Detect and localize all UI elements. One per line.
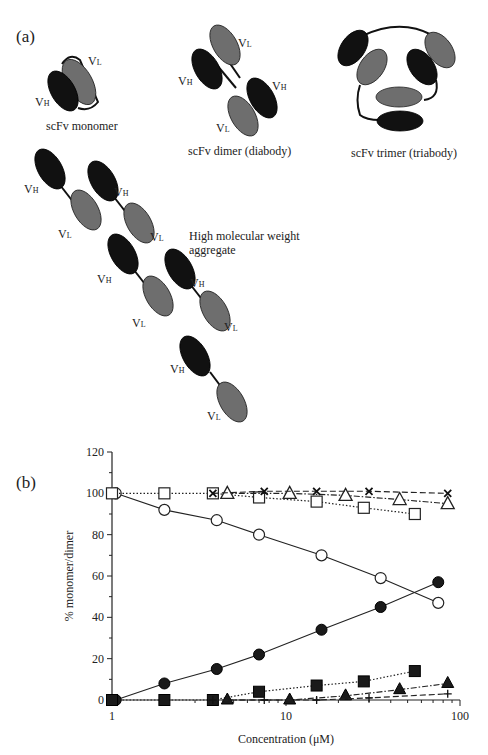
series-line xyxy=(213,694,448,700)
triabody-diagram: scFv trimer (triabody) xyxy=(332,25,462,160)
data-point xyxy=(365,694,373,702)
data-point xyxy=(375,573,386,584)
series-plus xyxy=(209,690,452,704)
aggregate-diagram: VH VH VL VL VH VH VL VL VH VL High molec… xyxy=(24,144,300,427)
y-tick-label: 0 xyxy=(98,693,104,707)
panel-b-label: (b) xyxy=(16,473,36,492)
data-point xyxy=(159,504,170,515)
data-point xyxy=(409,666,420,677)
panel-a-label: (a) xyxy=(16,27,35,46)
triabody-caption: scFv trimer (triabody) xyxy=(351,146,457,160)
panel-a: (a) VL VH scFv monomer VL VH VH VL scFv … xyxy=(16,20,461,427)
y-tick-label: 40 xyxy=(92,610,104,624)
vl-label: VL xyxy=(58,227,72,241)
vh-label: VH xyxy=(114,185,129,199)
vl-label: VL xyxy=(224,320,238,334)
chart-axes: 020406080100120110100 xyxy=(86,445,469,723)
vl-domain xyxy=(376,87,422,107)
aggregate-caption-line1: High molecular weight xyxy=(189,229,300,243)
vl-label: VL xyxy=(132,316,146,330)
data-point xyxy=(311,496,322,507)
diabody-caption: scFv dimer (diabody) xyxy=(188,144,291,158)
vl-label: VL xyxy=(238,36,252,50)
chart-series xyxy=(107,486,455,705)
vl-label: VL xyxy=(207,409,221,423)
data-point xyxy=(393,493,406,505)
y-tick-label: 120 xyxy=(86,445,104,459)
data-point xyxy=(433,577,444,588)
data-point xyxy=(107,695,118,706)
data-point xyxy=(358,676,369,687)
y-tick-label: 60 xyxy=(92,569,104,583)
data-point xyxy=(107,488,118,499)
y-tick-label: 100 xyxy=(86,486,104,500)
vh-label: VH xyxy=(272,79,287,93)
diabody-diagram: VL VH VH VL scFv dimer (diabody) xyxy=(178,20,291,158)
data-point xyxy=(159,695,170,706)
vh-label: VH xyxy=(35,95,50,109)
y-tick-label: 80 xyxy=(92,528,104,542)
data-point xyxy=(358,502,369,513)
data-point xyxy=(409,509,420,520)
data-point xyxy=(254,686,265,697)
data-point xyxy=(441,497,454,509)
series-x xyxy=(209,488,451,497)
data-point xyxy=(444,690,452,698)
data-point xyxy=(284,693,296,704)
vh-label: VH xyxy=(190,276,205,290)
y-axis-label: % monomer/dimer xyxy=(62,531,76,621)
aggregate-caption-line2: aggregate xyxy=(189,243,236,257)
vl-label: VL xyxy=(216,121,230,135)
data-point xyxy=(254,649,265,660)
vl-label: VL xyxy=(150,230,164,244)
vh-label: VH xyxy=(24,182,39,196)
data-point xyxy=(311,680,322,691)
vh-domain xyxy=(377,111,423,131)
x-tick-label: 10 xyxy=(280,709,292,723)
data-point xyxy=(283,486,296,498)
data-point xyxy=(316,624,327,635)
data-point xyxy=(394,683,406,694)
x-tick-label: 100 xyxy=(451,709,469,723)
data-point xyxy=(375,602,386,613)
data-point xyxy=(211,664,222,675)
data-point xyxy=(211,515,222,526)
data-point xyxy=(159,678,170,689)
x-axis-label: Concentration (μM) xyxy=(238,732,334,746)
monomer-diagram: VL VH scFv monomer xyxy=(35,54,118,133)
vh-label: VH xyxy=(97,272,112,286)
data-point xyxy=(433,597,444,608)
data-point xyxy=(316,550,327,561)
figure: (a) VL VH scFv monomer VL VH VH VL scFv … xyxy=(0,0,488,755)
data-point xyxy=(221,693,233,704)
panel-b: (b) 020406080100120110100 % monomer/dime… xyxy=(16,445,469,746)
vl-label: VL xyxy=(88,54,102,68)
vh-label: VH xyxy=(170,362,185,376)
data-point xyxy=(254,529,265,540)
series-circle-open xyxy=(110,488,444,609)
data-point xyxy=(442,676,454,687)
data-point xyxy=(159,488,170,499)
x-tick-label: 1 xyxy=(109,709,115,723)
y-tick-label: 20 xyxy=(92,652,104,666)
series-circle-filled xyxy=(110,577,444,706)
monomer-caption: scFv monomer xyxy=(46,119,118,133)
vh-label: VH xyxy=(178,74,193,88)
data-point xyxy=(339,488,352,500)
